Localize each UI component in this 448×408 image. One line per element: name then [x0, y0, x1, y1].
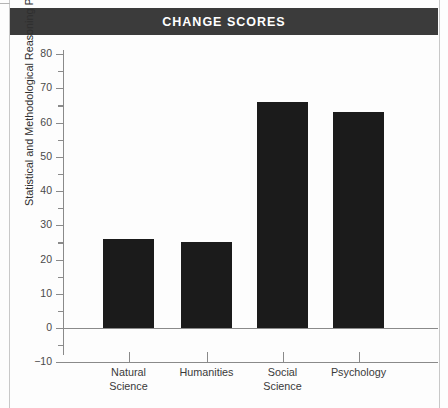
y-tick-minor-45 [58, 174, 64, 175]
y-tick-20 [56, 260, 64, 261]
chart-title: CHANGE SCORES [162, 15, 285, 29]
y-tick-label-0: 0 [8, 321, 52, 333]
bar [257, 102, 308, 328]
y-tick-label-70: 70 [8, 81, 52, 93]
x-tick-label-3: Psychology [309, 366, 409, 380]
y-tick-minor-5 [58, 311, 64, 312]
y-tick-60 [56, 123, 64, 124]
y-tick-label-50: 50 [8, 150, 52, 162]
x-axis-zero-line [64, 328, 438, 329]
y-tick-label-80: 80 [8, 47, 52, 59]
bar [333, 112, 384, 328]
y-tick-minor-15 [58, 277, 64, 278]
y-tick-label--10: −10 [8, 355, 52, 367]
y-tick-0 [56, 328, 64, 329]
x-axis-line [64, 362, 438, 363]
y-tick-30 [56, 225, 64, 226]
y-tick-50 [56, 157, 64, 158]
y-tick-40 [56, 191, 64, 192]
chart-title-banner: CHANGE SCORES [10, 8, 438, 35]
page-right-rule [439, 0, 440, 408]
x-tick-2 [283, 352, 284, 362]
y-tick-label-30: 30 [8, 218, 52, 230]
y-tick-70 [56, 88, 64, 89]
y-tick-minor-55 [58, 140, 64, 141]
y-tick-minor-35 [58, 208, 64, 209]
bar [181, 242, 232, 328]
y-tick-80 [56, 54, 64, 55]
y-axis-line [63, 50, 64, 355]
x-tick-3 [359, 352, 360, 362]
page-left-rule [9, 0, 10, 408]
y-axis-title: Statistical and Methodological Reasoning… [23, 0, 35, 206]
y-tick-label-40: 40 [8, 184, 52, 196]
y-tick--10 [56, 362, 64, 363]
x-tick-0 [129, 352, 130, 362]
y-tick-minor-65 [58, 105, 64, 106]
bar [103, 239, 154, 328]
y-tick-label-60: 60 [8, 116, 52, 128]
y-tick-label-20: 20 [8, 253, 52, 265]
y-tick-minor-25 [58, 242, 64, 243]
y-tick-label-10: 10 [8, 287, 52, 299]
y-tick-minor-75 [58, 71, 64, 72]
x-tick-1 [207, 352, 208, 362]
page-top-rule [0, 3, 10, 4]
chart-figure: CHANGE SCORES Statistical and Methodolog… [0, 0, 448, 408]
y-tick-10 [56, 294, 64, 295]
y-tick-minor--5 [58, 345, 64, 346]
